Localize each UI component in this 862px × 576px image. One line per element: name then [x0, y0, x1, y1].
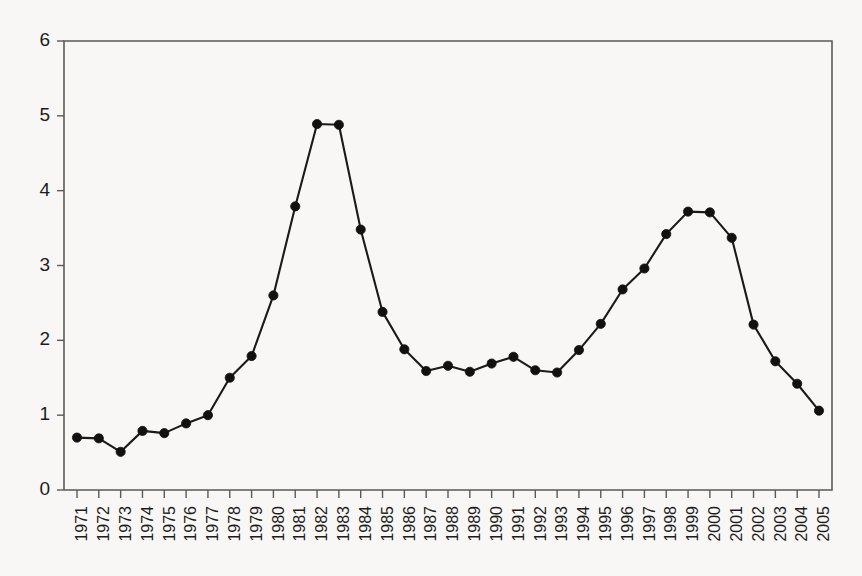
series-line	[77, 124, 819, 452]
y-tick-label: 4	[39, 179, 50, 200]
chart-figure: 0123456 19711972197319741975197619771978…	[0, 0, 862, 576]
data-point	[247, 351, 256, 360]
data-point	[553, 368, 562, 377]
x-tick-label: 1985	[379, 506, 396, 542]
data-point	[749, 320, 758, 329]
x-tick-label: 1977	[204, 506, 221, 542]
x-tick-label: 2001	[728, 506, 745, 542]
x-tick-label: 1995	[597, 506, 614, 542]
x-tick-label: 2005	[815, 506, 832, 542]
x-tick-label: 1974	[139, 506, 156, 542]
x-tick-label: 1991	[510, 506, 527, 542]
x-tick-label: 1990	[488, 506, 505, 542]
x-tick-label: 1981	[291, 506, 308, 542]
data-point	[400, 345, 409, 354]
data-point	[727, 233, 736, 242]
y-tick-label: 0	[39, 478, 50, 499]
x-tick-label: 1986	[401, 506, 418, 542]
data-point	[356, 225, 365, 234]
x-tick-label: 1980	[270, 506, 287, 542]
data-point	[509, 352, 518, 361]
x-tick-label: 2000	[706, 506, 723, 542]
x-tick-label: 1976	[182, 506, 199, 542]
x-tick-label: 1979	[248, 506, 265, 542]
data-point	[269, 291, 278, 300]
x-tick-label: 2002	[750, 506, 767, 542]
x-axis-tick-labels: 1971197219731974197519761977197819791980…	[73, 506, 832, 542]
series-polyline	[77, 124, 819, 452]
data-point	[225, 373, 234, 382]
x-tick-label: 1983	[335, 506, 352, 542]
data-point	[203, 411, 212, 420]
y-tick-label: 3	[39, 254, 50, 275]
x-axis-ticks	[77, 490, 819, 498]
x-tick-label: 1973	[117, 506, 134, 542]
x-tick-label: 1989	[466, 506, 483, 542]
data-point	[443, 361, 452, 370]
data-point	[574, 345, 583, 354]
plot-border	[64, 41, 832, 490]
x-tick-label: 1971	[73, 506, 90, 542]
data-point	[72, 433, 81, 442]
x-tick-label: 1993	[553, 506, 570, 542]
data-point	[160, 429, 169, 438]
data-point	[465, 367, 474, 376]
data-point	[618, 285, 627, 294]
x-tick-label: 1987	[422, 506, 439, 542]
data-point	[312, 119, 321, 128]
data-point	[683, 207, 692, 216]
x-tick-label: 1998	[662, 506, 679, 542]
series-markers	[72, 119, 823, 456]
data-point	[771, 357, 780, 366]
plot-frame	[64, 41, 832, 490]
data-point	[596, 319, 605, 328]
x-tick-label: 1988	[444, 506, 461, 542]
x-tick-label: 2004	[793, 506, 810, 542]
x-tick-label: 1972	[95, 506, 112, 542]
data-point	[116, 447, 125, 456]
x-tick-label: 1992	[532, 506, 549, 542]
data-point	[662, 229, 671, 238]
y-tick-label: 1	[39, 403, 50, 424]
data-point	[640, 264, 649, 273]
x-tick-label: 1984	[357, 506, 374, 542]
data-point	[793, 379, 802, 388]
data-point	[378, 307, 387, 316]
x-tick-label: 1994	[575, 506, 592, 542]
data-point	[422, 366, 431, 375]
data-point	[334, 120, 343, 129]
y-tick-label: 5	[39, 104, 50, 125]
data-point	[138, 426, 147, 435]
data-point	[814, 406, 823, 415]
data-point	[94, 434, 103, 443]
data-point	[182, 419, 191, 428]
x-tick-label: 1975	[161, 506, 178, 542]
data-point	[291, 202, 300, 211]
y-axis-tick-labels: 0123456	[39, 29, 50, 499]
x-tick-label: 1996	[619, 506, 636, 542]
y-tick-label: 2	[39, 328, 50, 349]
y-axis-ticks	[57, 41, 64, 490]
x-tick-label: 1999	[684, 506, 701, 542]
x-tick-label: 1997	[641, 506, 658, 542]
data-point	[487, 359, 496, 368]
x-tick-label: 1978	[226, 506, 243, 542]
data-point	[705, 208, 714, 217]
line-chart: 0123456 19711972197319741975197619771978…	[0, 0, 862, 576]
data-point	[531, 366, 540, 375]
x-tick-label: 1982	[313, 506, 330, 542]
y-tick-label: 6	[39, 29, 50, 50]
x-tick-label: 2003	[772, 506, 789, 542]
